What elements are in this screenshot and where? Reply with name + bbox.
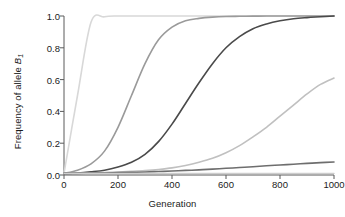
chart-figure: Frequency of allele B1 0.0 0.2 0.4 0.6 0… <box>0 0 345 217</box>
plot-area <box>0 0 345 217</box>
curve-4-weak-selection <box>64 78 334 173</box>
curve-1-strongest-selection <box>64 15 334 173</box>
curve-2-strong-selection <box>64 16 334 173</box>
data-curves <box>64 15 334 173</box>
